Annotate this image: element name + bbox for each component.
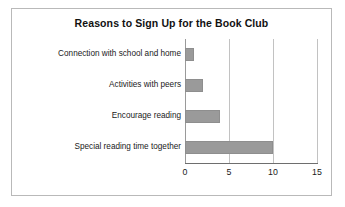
category-label: Encourage reading: [13, 111, 181, 120]
bar: [185, 141, 273, 154]
category-label: Activities with peers: [13, 80, 181, 89]
plot-area: [185, 39, 317, 163]
x-axis-tick-labels: 051015: [185, 167, 317, 181]
chart-title: Reasons to Sign Up for the Book Club: [12, 17, 331, 29]
category-label: Special reading time together: [13, 142, 181, 151]
tick-label-5: 5: [227, 167, 232, 177]
bar-row: [185, 101, 317, 132]
bar: [185, 110, 220, 123]
category-axis-labels: Connection with school and homeActivitie…: [12, 39, 181, 163]
bar: [185, 48, 194, 61]
tick-label-0: 0: [183, 167, 188, 177]
bar: [185, 79, 203, 92]
bar-row: [185, 132, 317, 163]
bar-row: [185, 39, 317, 70]
category-label: Connection with school and home: [13, 49, 181, 58]
gridline-15: [317, 39, 318, 163]
tick-label-10: 10: [268, 167, 278, 177]
x-axis-line: [185, 163, 318, 164]
chart-frame: Reasons to Sign Up for the Book Club Con…: [11, 8, 332, 196]
tick-label-15: 15: [312, 167, 322, 177]
bar-row: [185, 70, 317, 101]
